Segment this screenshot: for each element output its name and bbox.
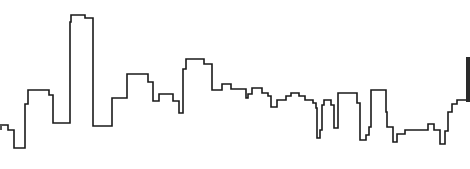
skyline-drawing: City skyline outline drawing bbox=[0, 0, 470, 169]
left-edge-mark bbox=[0, 124, 2, 130]
right-edge-bar bbox=[466, 57, 470, 102]
skyline-illustration bbox=[0, 0, 470, 169]
